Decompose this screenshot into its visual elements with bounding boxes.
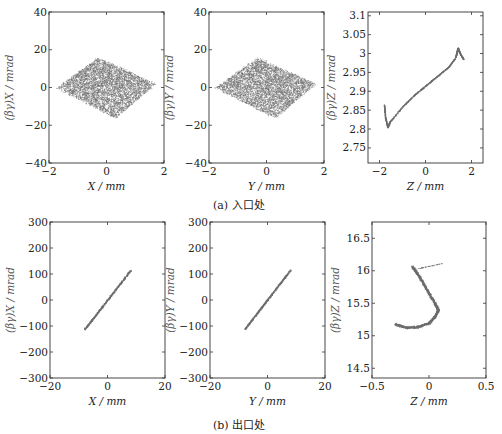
y-tick-label: 100 bbox=[28, 268, 48, 280]
x-axis-label: Y / mm bbox=[248, 180, 285, 192]
plot-a-y-phase-space: −202−40−2002040Y / mm(βγ)Y / mrad bbox=[163, 6, 327, 193]
y-tick-label: 0 bbox=[201, 294, 208, 306]
scatter-points bbox=[56, 58, 156, 118]
plot-b-z-phase-space: −0.500.514.51515.51616.5Z / mm(βγ)Z / mr… bbox=[329, 222, 494, 407]
y-tick-label: 2.95 bbox=[343, 66, 366, 78]
y-tick-label: 300 bbox=[188, 216, 208, 228]
y-axis-ticks: 2.752.82.852.92.9533.053.1 bbox=[343, 9, 483, 153]
y-axis-label: (βγ)X / mrad bbox=[4, 267, 16, 333]
x-tick-label: 20 bbox=[318, 380, 331, 392]
y-tick-label: 3.05 bbox=[343, 28, 366, 40]
y-axis-label: (βγ)Y / mrad bbox=[163, 54, 175, 120]
plot-b-x-phase-space: −20020−300−200−1000100200300X / mm(βγ)X … bbox=[4, 216, 172, 408]
y-tick-label: −100 bbox=[19, 320, 48, 332]
x-axis-label: Y / mm bbox=[249, 395, 286, 407]
x-axis-label: X / mm bbox=[87, 180, 126, 192]
y-tick-label: −40 bbox=[185, 157, 207, 169]
caption-a-entrance: (a) 入口处 bbox=[213, 196, 265, 212]
x-tick-label: 2 bbox=[161, 165, 168, 177]
x-axis-ticks: −20020 bbox=[39, 222, 172, 392]
x-tick-label: −0.5 bbox=[359, 380, 385, 392]
scatter-points bbox=[84, 270, 132, 331]
y-tick-label: 100 bbox=[188, 268, 208, 280]
x-tick-label: 0 bbox=[263, 165, 270, 177]
x-tick-label: 0 bbox=[422, 165, 429, 177]
x-tick-label: 0 bbox=[103, 165, 110, 177]
y-tick-label: 20 bbox=[194, 43, 207, 55]
y-tick-label: 300 bbox=[28, 216, 48, 228]
plot-a-z-phase-space: −2022.752.82.852.92.9533.053.1Z / mm(βγ)… bbox=[325, 9, 483, 192]
x-axis-label: X / mm bbox=[88, 395, 127, 407]
caption-b-exit: (b) 出口处 bbox=[213, 416, 265, 432]
y-tick-label: −200 bbox=[179, 346, 208, 358]
y-tick-label: −100 bbox=[179, 320, 208, 332]
x-tick-label: 0 bbox=[426, 380, 433, 392]
x-tick-label: 0.5 bbox=[478, 380, 495, 392]
y-axis-ticks: −300−200−1000100200300 bbox=[179, 216, 325, 384]
y-axis-label: (βγ)Y / mrad bbox=[164, 267, 176, 333]
x-tick-label: 2 bbox=[321, 165, 328, 177]
y-tick-label: 16.5 bbox=[347, 232, 370, 244]
y-tick-label: −300 bbox=[19, 372, 48, 384]
y-tick-label: 200 bbox=[28, 242, 48, 254]
y-tick-label: −300 bbox=[179, 372, 208, 384]
y-axis-ticks: 14.51515.51616.5 bbox=[347, 232, 486, 374]
scatter-points bbox=[384, 48, 465, 129]
scatter-points bbox=[214, 58, 316, 119]
y-tick-label: −40 bbox=[25, 157, 47, 169]
y-tick-label: −20 bbox=[185, 119, 207, 131]
y-tick-label: 15 bbox=[357, 329, 370, 341]
plot-a-x-phase-space: −202−40−2002040X / mm(βγ)X / mrad bbox=[3, 6, 167, 193]
y-tick-label: 3 bbox=[359, 47, 366, 59]
y-tick-label: 16 bbox=[357, 264, 371, 276]
x-tick-label: 0 bbox=[104, 380, 111, 392]
x-axis-label: Z / mm bbox=[409, 395, 447, 407]
x-axis-label: Z / mm bbox=[406, 180, 444, 192]
x-axis-ticks: −0.500.5 bbox=[359, 222, 494, 392]
y-tick-label: 15.5 bbox=[347, 297, 370, 309]
y-tick-label: 2.9 bbox=[349, 85, 366, 97]
y-tick-label: 40 bbox=[34, 6, 47, 18]
y-tick-label: −20 bbox=[25, 119, 47, 131]
y-tick-label: 0 bbox=[40, 81, 47, 93]
y-tick-label: 2.8 bbox=[349, 123, 366, 135]
figure-canvas: −202−40−2002040X / mm(βγ)X / mrad −202−4… bbox=[0, 0, 502, 434]
y-tick-label: 2.85 bbox=[343, 104, 366, 116]
y-tick-label: 40 bbox=[194, 6, 207, 18]
x-axis-ticks: −202 bbox=[372, 12, 475, 177]
x-tick-label: 0 bbox=[264, 380, 271, 392]
plot-frame bbox=[372, 222, 486, 378]
y-tick-label: 2.75 bbox=[343, 141, 366, 153]
y-tick-label: −200 bbox=[19, 346, 48, 358]
y-axis-label: (βγ)Z / mrad bbox=[329, 267, 341, 333]
x-tick-label: 2 bbox=[468, 165, 475, 177]
x-tick-label: 20 bbox=[158, 380, 171, 392]
x-axis-ticks: −20020 bbox=[199, 222, 332, 392]
y-tick-label: 14.5 bbox=[347, 362, 370, 374]
y-tick-label: 0 bbox=[41, 294, 48, 306]
y-tick-label: 3.1 bbox=[349, 9, 366, 21]
x-tick-label: −2 bbox=[372, 165, 387, 177]
y-tick-label: 20 bbox=[34, 43, 47, 55]
y-axis-label: (βγ)Z / mrad bbox=[325, 54, 337, 120]
y-axis-label: (βγ)X / mrad bbox=[3, 54, 15, 120]
y-axis-ticks: −300−200−1000100200300 bbox=[19, 216, 165, 384]
scatter-points bbox=[244, 270, 291, 330]
y-tick-label: 0 bbox=[200, 81, 207, 93]
plot-b-y-phase-space: −20020−300−200−1000100200300Y / mm(βγ)Y … bbox=[164, 216, 332, 408]
y-tick-label: 200 bbox=[188, 242, 208, 254]
scatter-points bbox=[394, 263, 443, 329]
